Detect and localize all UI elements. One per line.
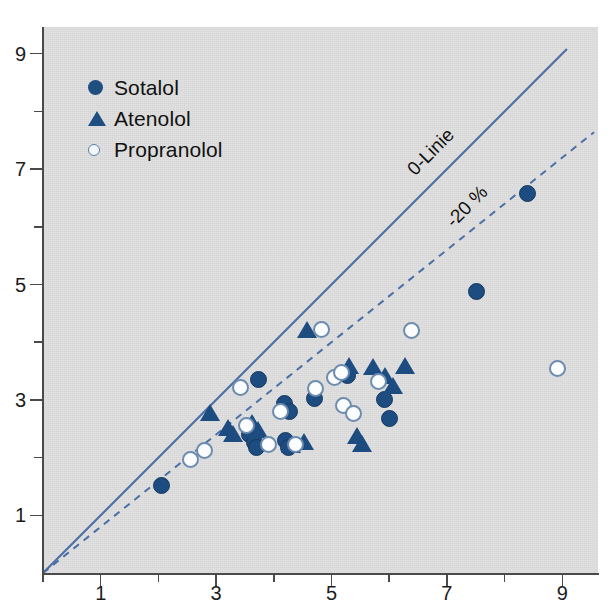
minus-20-percent-line bbox=[43, 132, 594, 573]
legend-label: Atenolol bbox=[114, 107, 191, 131]
y-axis-minor-tick bbox=[34, 457, 42, 459]
x-axis-line bbox=[42, 573, 599, 575]
y-axis-tick-label: 1 bbox=[0, 505, 26, 525]
y-axis-minor-tick bbox=[34, 111, 42, 113]
data-point-sotalol bbox=[519, 185, 536, 202]
x-axis-origin-tick bbox=[42, 574, 44, 582]
data-point-propranolol bbox=[260, 436, 277, 453]
x-axis-minor-tick bbox=[504, 574, 506, 582]
x-axis-tick-label: 9 bbox=[547, 583, 577, 603]
data-point-propranolol bbox=[313, 321, 330, 338]
y-axis-line bbox=[42, 27, 44, 575]
data-point-atenolol bbox=[395, 357, 415, 374]
x-axis-minor-tick bbox=[388, 574, 390, 582]
y-axis-tick bbox=[30, 399, 42, 401]
legend-item-atenolol[interactable]: Atenolol bbox=[88, 103, 223, 134]
data-point-propranolol bbox=[333, 364, 350, 381]
filled-circle-icon bbox=[88, 80, 114, 95]
y-axis-tick bbox=[30, 53, 42, 55]
x-axis-tick-label: 3 bbox=[201, 583, 231, 603]
legend-item-sotalol[interactable]: Sotalol bbox=[88, 72, 223, 103]
scatter-chart-figure: 1357913579 0-Linie-20 % Sotalol Atenolol… bbox=[0, 0, 615, 613]
legend-label: Propranolol bbox=[114, 138, 223, 162]
y-axis-minor-tick bbox=[34, 341, 42, 343]
open-circle-icon bbox=[88, 144, 114, 156]
chart-legend: Sotalol Atenolol Propranolol bbox=[88, 72, 223, 165]
x-axis-minor-tick bbox=[273, 574, 275, 582]
data-point-propranolol bbox=[549, 360, 566, 377]
y-axis-tick-label: 3 bbox=[0, 390, 26, 410]
triangle-icon bbox=[88, 111, 114, 126]
legend-item-propranolol[interactable]: Propranolol bbox=[88, 134, 223, 165]
data-point-propranolol bbox=[307, 380, 324, 397]
x-axis-tick-label: 1 bbox=[86, 583, 116, 603]
data-point-propranolol bbox=[403, 322, 420, 339]
data-point-sotalol bbox=[381, 410, 398, 427]
x-axis-minor-tick bbox=[158, 574, 160, 582]
x-axis-tick-label: 7 bbox=[432, 583, 462, 603]
legend-label: Sotalol bbox=[114, 76, 179, 100]
data-point-propranolol bbox=[196, 442, 213, 459]
data-point-propranolol bbox=[238, 417, 255, 434]
y-axis-tick bbox=[30, 284, 42, 286]
y-axis-tick bbox=[30, 515, 42, 517]
data-point-atenolol bbox=[352, 435, 372, 452]
y-axis-tick-label: 9 bbox=[0, 44, 26, 64]
y-axis-tick-label: 7 bbox=[0, 159, 26, 179]
y-axis-tick bbox=[30, 168, 42, 170]
y-axis-minor-tick bbox=[34, 226, 42, 228]
data-point-propranolol bbox=[232, 379, 249, 396]
y-axis-tick-label: 5 bbox=[0, 275, 26, 295]
x-axis-tick-label: 5 bbox=[317, 583, 347, 603]
